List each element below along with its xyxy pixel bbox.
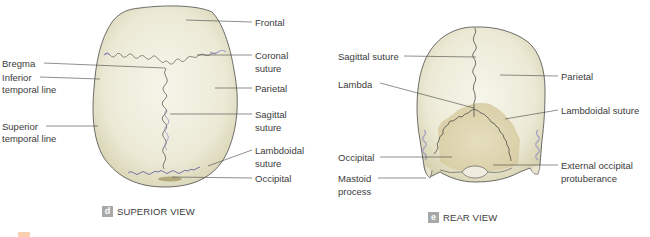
label-occipital-superior: Occipital <box>255 173 291 184</box>
caption-text-rear: REAR VIEW <box>443 212 497 223</box>
label-external-occipital-protuberance-2: protuberance <box>561 173 617 184</box>
label-coronal-suture-1: Coronal <box>255 50 288 61</box>
label-superior-temporal-line-2: temporal line <box>2 133 56 144</box>
label-lambdoidal-suture-rear: Lambdoidal suture <box>561 105 639 116</box>
cropped-caption-remnant <box>18 232 30 237</box>
caption-rear-view: e REAR VIEW <box>428 212 497 223</box>
panel-badge-e: e <box>428 212 439 223</box>
label-inferior-temporal-line-1: Inferior <box>2 72 32 83</box>
label-parietal-rear: Parietal <box>561 71 593 82</box>
label-inferior-temporal-line-2: temporal line <box>2 84 56 95</box>
skull-illustrations <box>0 0 650 237</box>
label-sagittal-suture-2: suture <box>255 122 281 133</box>
label-frontal: Frontal <box>255 17 285 28</box>
label-lambdoidal-suture-2: suture <box>255 158 281 169</box>
label-mastoid-process-1: Mastoid <box>338 173 371 184</box>
caption-superior-view: d SUPERIOR VIEW <box>102 206 195 217</box>
label-sagittal-suture-1: Sagittal <box>255 109 287 120</box>
superior-view-skull <box>93 6 237 187</box>
skull-figure: Bregma Inferior temporal line Superior t… <box>0 0 650 237</box>
label-sagittal-suture-rear: Sagittal suture <box>338 51 399 62</box>
caption-text-superior: SUPERIOR VIEW <box>117 206 195 217</box>
label-superior-temporal-line-1: Superior <box>2 121 38 132</box>
rear-view-skull <box>417 27 545 182</box>
panel-badge-d: d <box>102 206 113 217</box>
label-lambdoidal-suture-1: Lambdoidal <box>255 145 304 156</box>
label-external-occipital-protuberance-1: External occipital <box>561 160 633 171</box>
label-mastoid-process-2: process <box>338 186 371 197</box>
label-parietal-superior: Parietal <box>255 83 287 94</box>
label-bregma: Bregma <box>2 58 35 69</box>
label-occipital-rear: Occipital <box>338 152 374 163</box>
label-lambda: Lambda <box>338 79 372 90</box>
label-coronal-suture-2: suture <box>255 63 281 74</box>
